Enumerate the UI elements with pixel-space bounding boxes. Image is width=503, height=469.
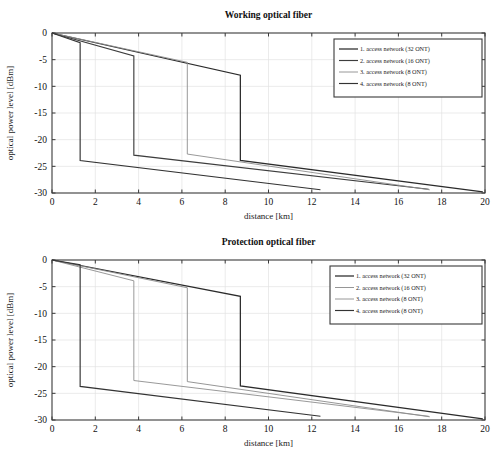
y-axis-label: optical power level [dBm] — [5, 293, 15, 388]
x-tick-label: 4 — [136, 424, 141, 434]
y-tick-label: -25 — [34, 389, 47, 399]
x-tick-label: 12 — [307, 197, 317, 207]
x-tick-label: 18 — [437, 424, 447, 434]
y-axis-label: optical power level [dBm] — [5, 66, 15, 161]
working-optical-fiber-chart: Working optical fiber024681012141618200-… — [0, 0, 503, 234]
legend-label-3: 3. access network (8 ONT) — [356, 295, 423, 303]
x-axis-label: distance [km] — [244, 211, 293, 221]
x-tick-label: 14 — [350, 424, 360, 434]
x-tick-label: 18 — [437, 197, 447, 207]
y-tick-label: -20 — [34, 135, 47, 145]
y-tick-label: -20 — [34, 362, 47, 372]
protection-optical-fiber-chart: Protection optical fiber0246810121416182… — [0, 234, 503, 469]
series-line-4 — [52, 260, 320, 416]
x-tick-label: 6 — [180, 424, 185, 434]
legend-label-1: 1. access network (32 ONT) — [360, 45, 430, 53]
x-tick-label: 0 — [50, 424, 55, 434]
y-tick-label: -30 — [34, 415, 47, 425]
x-tick-label: 16 — [394, 424, 404, 434]
x-tick-label: 14 — [350, 197, 360, 207]
legend[interactable]: 1. access network (32 ONT)2. access netw… — [334, 39, 482, 97]
x-tick-label: 0 — [50, 197, 55, 207]
y-tick-label: -5 — [39, 55, 47, 65]
x-tick-label: 4 — [136, 197, 141, 207]
y-tick-label: 0 — [42, 255, 47, 265]
x-tick-label: 8 — [223, 424, 228, 434]
x-axis-label: distance [km] — [244, 438, 293, 448]
y-tick-label: -15 — [34, 335, 47, 345]
y-tick-label: -5 — [39, 282, 47, 292]
chart-panel-working: Working optical fiber024681012141618200-… — [0, 0, 503, 234]
legend-label-4: 4. access network (8 ONT) — [360, 80, 427, 88]
y-tick-label: -25 — [34, 162, 47, 172]
y-tick-label: -10 — [34, 82, 47, 92]
legend[interactable]: 1. access network (32 ONT)2. access netw… — [330, 266, 482, 324]
y-tick-label: -15 — [34, 108, 47, 118]
y-tick-label: -10 — [34, 309, 47, 319]
x-tick-label: 6 — [180, 197, 185, 207]
y-tick-label: 0 — [42, 28, 47, 38]
x-tick-label: 20 — [480, 424, 490, 434]
chart-title: Working optical fiber — [225, 10, 313, 20]
legend-label-3: 3. access network (8 ONT) — [360, 68, 427, 76]
legend-label-4: 4. access network (8 ONT) — [356, 307, 423, 315]
chart-title: Protection optical fiber — [222, 237, 317, 247]
legend-label-2: 2. access network (16 ONT) — [356, 284, 426, 292]
x-tick-label: 16 — [394, 197, 404, 207]
x-tick-label: 10 — [264, 424, 274, 434]
x-tick-label: 20 — [480, 197, 490, 207]
figure-container: Working optical fiber024681012141618200-… — [0, 0, 503, 469]
legend-label-2: 2. access network (16 ONT) — [360, 57, 430, 65]
x-tick-label: 2 — [93, 424, 98, 434]
x-tick-label: 2 — [93, 197, 98, 207]
legend-label-1: 1. access network (32 ONT) — [356, 272, 426, 280]
chart-panel-protection: Protection optical fiber0246810121416182… — [0, 234, 503, 468]
x-tick-label: 12 — [307, 424, 317, 434]
x-tick-label: 8 — [223, 197, 228, 207]
x-tick-label: 10 — [264, 197, 274, 207]
y-tick-label: -30 — [34, 188, 47, 198]
